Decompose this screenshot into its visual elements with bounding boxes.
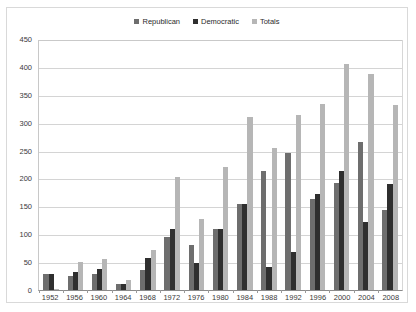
legend-swatch-icon [252, 19, 257, 24]
bar-group-1980 [208, 40, 232, 290]
x-axis-tick-label-1988: 1988 [257, 293, 281, 307]
bar-democratic-1952 [49, 274, 54, 290]
bar-group-2004 [354, 40, 378, 290]
x-axis-tick-label-1996: 1996 [306, 293, 330, 307]
legend-swatch-icon [134, 19, 139, 24]
bar-group-1956 [63, 40, 87, 290]
x-axis-tick-label-2000: 2000 [330, 293, 354, 307]
legend-item-totals: Totals [252, 17, 280, 26]
y-axis-tick-label: 100 [19, 231, 32, 239]
bar-totals-1992 [296, 115, 301, 290]
bar-totals-2004 [368, 74, 373, 290]
bar-group-2000 [329, 40, 353, 290]
bar-group-1964 [112, 40, 136, 290]
x-axis-tick-label-1960: 1960 [87, 293, 111, 307]
bar-group-1988 [257, 40, 281, 290]
legend-item-democratic: Democratic [193, 17, 239, 26]
y-axis-tick-label: 350 [19, 92, 32, 100]
bar-group-1992 [281, 40, 305, 290]
bar-group-1972 [160, 40, 184, 290]
x-axis-tick-label-2008: 2008 [379, 293, 403, 307]
y-axis-tick-label: 150 [19, 203, 32, 211]
y-axis-tick-label: 300 [19, 120, 32, 128]
bar-group-1952 [39, 40, 63, 290]
chart-container: RepublicanDemocraticTotals 4504003503002… [6, 7, 408, 303]
x-axis-tick-label-1980: 1980 [208, 293, 232, 307]
x-axis-tick-label-2004: 2004 [354, 293, 378, 307]
bar-totals-1952 [54, 289, 59, 290]
y-axis-labels: 450400350300250200150100500 [7, 40, 36, 291]
bar-totals-2000 [344, 64, 349, 290]
x-axis-tick-label-1968: 1968 [135, 293, 159, 307]
legend-label: Democratic [201, 17, 239, 26]
legend-label: Totals [260, 17, 280, 26]
y-axis-tick-label: 450 [19, 36, 32, 44]
x-axis-tick-label-1984: 1984 [233, 293, 257, 307]
bar-totals-2008 [393, 105, 398, 290]
bar-totals-1960 [102, 259, 107, 290]
x-axis-tick-label-1964: 1964 [111, 293, 135, 307]
bar-totals-1996 [320, 104, 325, 290]
bar-totals-1956 [78, 262, 83, 290]
bar-group-1976 [184, 40, 208, 290]
y-axis-tick-label: 0 [28, 287, 32, 295]
plot-area [38, 40, 403, 291]
bar-totals-1976 [199, 219, 204, 290]
legend-label: Republican [142, 17, 180, 26]
x-axis-tick-label-1972: 1972 [160, 293, 184, 307]
bar-series-container [39, 40, 402, 290]
x-axis-labels: 1952195619601964196819721976198019841988… [38, 293, 403, 307]
bar-totals-1980 [223, 167, 228, 290]
bar-totals-1984 [247, 117, 252, 290]
bar-totals-1964 [126, 280, 131, 290]
bar-totals-1972 [175, 177, 180, 290]
bar-group-1960 [87, 40, 111, 290]
bar-group-1968 [136, 40, 160, 290]
legend-item-republican: Republican [134, 17, 180, 26]
x-axis-tick-label-1952: 1952 [38, 293, 62, 307]
bar-group-1996 [305, 40, 329, 290]
y-axis-tick-label: 250 [19, 148, 32, 156]
x-axis-tick-label-1976: 1976 [184, 293, 208, 307]
bar-totals-1968 [151, 250, 156, 290]
bar-group-2008 [378, 40, 402, 290]
y-axis-tick-label: 50 [24, 259, 32, 267]
x-axis-tick-label-1992: 1992 [281, 293, 305, 307]
y-axis-tick-label: 400 [19, 64, 32, 72]
chart-legend: RepublicanDemocraticTotals [7, 17, 407, 26]
legend-swatch-icon [193, 19, 198, 24]
y-axis-tick-label: 200 [19, 175, 32, 183]
x-axis-tick-label-1956: 1956 [62, 293, 86, 307]
bar-totals-1988 [272, 148, 277, 290]
bar-group-1984 [233, 40, 257, 290]
